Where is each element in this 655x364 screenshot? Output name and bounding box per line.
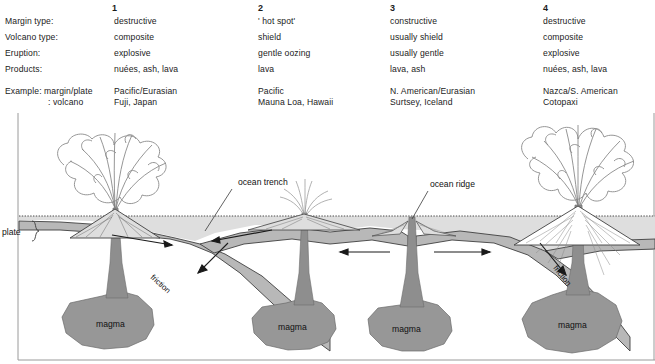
row-label-volcano-type: Volcano type: — [5, 32, 58, 42]
cell-4-margin-type: destructive — [543, 16, 586, 26]
row-label-example-margin: Example: margin/plate — [5, 86, 93, 96]
column-header-1: 1 — [112, 3, 117, 13]
cross-section-diagram: ocean trench ocean ridge plate friction … — [0, 113, 655, 364]
cell-1-eruption: explosive — [114, 48, 151, 58]
cell-2-example-margin: Pacific — [258, 86, 284, 96]
cell-1-margin-type: destructive — [114, 16, 157, 26]
conduit-3-ridge — [400, 217, 424, 307]
magma-label-1: magma — [96, 319, 125, 329]
cell-3-volcano-type: usually shield — [390, 32, 443, 42]
cell-4-example-volcano: Cotopaxi — [543, 97, 578, 107]
eruption-plume-4 — [522, 125, 634, 205]
magma-label-3: magma — [392, 324, 421, 334]
cell-1-example-margin: Pacific/Eurasian — [114, 86, 177, 96]
ocean-trench-label: ocean trench — [238, 177, 288, 187]
cell-1-volcano-type: composite — [114, 32, 154, 42]
cell-2-example-volcano: Mauna Loa, Hawaii — [258, 97, 333, 107]
magma-label-4: magma — [558, 320, 587, 330]
comparison-table: Margin type: Volcano type: Eruption: Pro… — [0, 0, 655, 115]
cell-4-example-margin: Nazca/S. American — [543, 86, 618, 96]
row-label-example-volcano: : volcano — [48, 97, 83, 107]
ocean-ridge-label: ocean ridge — [430, 179, 475, 189]
eruption-plume-1 — [58, 133, 166, 208]
column-header-3: 3 — [390, 3, 395, 13]
plate-label: plate — [2, 227, 21, 237]
cell-2-products: lava — [258, 64, 274, 74]
cell-3-example-margin: N. American/Eurasian — [390, 86, 475, 96]
ocean-ridge-leader — [412, 191, 428, 219]
cell-3-margin-type: constructive — [390, 16, 437, 26]
friction-label-left: friction — [149, 273, 173, 295]
cell-2-eruption: gentle oozing — [258, 48, 310, 58]
cell-4-products: nuées, ash, lava — [543, 64, 607, 74]
cell-3-eruption: usually gentle — [390, 48, 444, 58]
cell-4-volcano-type: composite — [543, 32, 583, 42]
cell-1-example-volcano: Fuji, Japan — [114, 97, 157, 107]
cell-3-example-volcano: Surtsey, Iceland — [390, 97, 453, 107]
column-header-4: 4 — [543, 3, 548, 13]
row-label-products: Products: — [5, 64, 42, 74]
cell-3-products: lava, ash — [390, 64, 425, 74]
eruption-plume-2 — [280, 179, 332, 214]
cell-2-volcano-type: shield — [258, 32, 281, 42]
row-label-eruption: Eruption: — [5, 48, 40, 58]
cell-4-eruption: explosive — [543, 48, 580, 58]
cell-1-products: nuées, ash, lava — [114, 64, 178, 74]
column-header-2: 2 — [258, 3, 263, 13]
row-label-margin-type: Margin type: — [5, 16, 54, 26]
cell-2-margin-type: ' hot spot' — [258, 16, 295, 26]
magma-label-2: magma — [278, 322, 307, 332]
